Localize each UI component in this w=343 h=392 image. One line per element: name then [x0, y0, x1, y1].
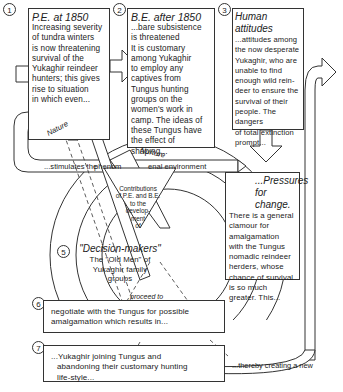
decision-makers-title: "Decision-makers"	[70, 243, 170, 255]
environment-label: enal environment	[148, 162, 206, 171]
thereby-creating-label: ...thereby creating a new	[232, 361, 313, 370]
box-2-text: ...bare subsistence is threatened It is …	[131, 23, 211, 157]
step-2-number: 2	[113, 3, 126, 16]
box-4-title: ...Pressures for change.	[229, 175, 296, 211]
contributions-text: Contributions of P.E. and B.E. to the de…	[110, 185, 166, 229]
box-1-text: Increasing severity of tundra winters is…	[32, 23, 106, 105]
step-1-number: 1	[3, 3, 16, 16]
box-7-joining-tungus: ...Yukaghir joining Tungus and abandonin…	[43, 345, 225, 382]
step-3-number: 3	[218, 3, 231, 16]
box-1-title: P.E. at 1850	[32, 11, 106, 23]
box-3-human-attitudes: Human attitudes ...attitudes among the n…	[232, 8, 304, 130]
box-4-pressures-for-change: ...Pressures for change. There is a gene…	[225, 172, 300, 280]
box-3-text: ...attitudes among the now desperate Yuk…	[235, 35, 301, 148]
step-5-number: 5	[57, 245, 70, 258]
box-4-text: There is a general clamour for amalgamat…	[229, 211, 296, 304]
decision-makers: "Decision-makers" The "Old Men" of Yukag…	[70, 243, 170, 284]
box-1-pe-1850: P.E. at 1850 Increasing severity of tund…	[28, 8, 110, 140]
box-3-title: Human attitudes	[235, 11, 301, 35]
stimulates-label: ...stimulates the	[44, 162, 97, 171]
phenom-label: phenom	[94, 162, 121, 171]
box-6-negotiate: negotiate with the Tungus for possible a…	[43, 300, 225, 333]
box-2-be-after-1850: B.E. after 1850 ...bare subsistence is t…	[127, 8, 215, 148]
box-2-title: B.E. after 1850	[131, 11, 211, 23]
